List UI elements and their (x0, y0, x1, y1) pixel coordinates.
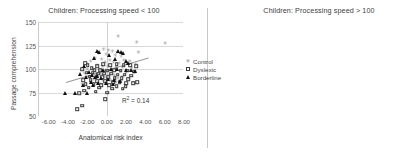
data-point-dyslexic (115, 84, 119, 88)
data-point-dyslexic (98, 86, 102, 90)
legend-item-label: Control (193, 58, 213, 65)
data-point-dyslexic (110, 87, 114, 91)
chart-panel-processing-speed-below-100: Children: Processing speed < 100 Passage… (0, 0, 208, 156)
data-point-dyslexic (80, 104, 84, 108)
data-point-borderline (93, 75, 97, 79)
data-point-dyslexic (115, 63, 119, 67)
filled-triangle-marker-icon (184, 75, 192, 79)
x-axis-tick-label: 0.00 (101, 118, 113, 125)
legend-item-borderline: Borderline (184, 73, 232, 81)
data-point-borderline (104, 81, 108, 85)
data-point-control: ✳ (136, 50, 140, 54)
data-point-borderline (85, 91, 89, 95)
y-axis-label-left: Passage comprehension (10, 37, 17, 110)
data-point-dyslexic (135, 80, 139, 84)
data-point-borderline (99, 76, 103, 80)
y-axis-tick-label: 50 (29, 113, 36, 120)
data-point-control: ✳ (163, 41, 167, 45)
legend-item-label: Dyslexic (193, 66, 216, 73)
x-axis-tick-label: -6.00 (42, 118, 56, 125)
data-point-borderline (97, 50, 101, 54)
data-point-borderline (118, 79, 122, 83)
x-axis-label-left: Anatomical risk index (38, 134, 183, 141)
legend-item-dyslexic: Dyslexic (184, 65, 232, 73)
data-point-borderline (111, 82, 115, 86)
data-point-control: ✳ (134, 40, 138, 44)
y-axis-tick-label: 100 (25, 66, 36, 73)
legend-item-label: Borderline (193, 74, 221, 81)
data-point-dyslexic (134, 64, 138, 68)
gridline-y (39, 22, 183, 23)
y-axis-tick-label: 150 (25, 19, 36, 26)
y-axis-tick-label: 125 (25, 42, 36, 49)
x-axis-tick-label: -2.00 (80, 118, 94, 125)
data-point-borderline (82, 64, 86, 68)
x-axis-tick-label: 8.00 (178, 118, 190, 125)
plot-points-left: ✳✳✳✳✳✳✳✳✳✳✳✳✳✳✳✳✳✳✳✳✳✳✳✳✳✳✳✳✳✳✳✳✳✳✳✳✳✳✳✳… (39, 22, 183, 116)
data-point-dyslexic (75, 108, 79, 112)
data-point-dyslexic (122, 63, 126, 67)
x-axis-tick-label: 2.00 (120, 118, 132, 125)
r-squared-annotation-left: R2 = 0.14 (122, 96, 149, 104)
data-point-borderline (63, 91, 67, 95)
data-point-dyslexic (121, 87, 125, 91)
data-point-dyslexic (103, 97, 107, 101)
data-point-borderline (126, 61, 130, 65)
data-point-borderline (115, 67, 119, 71)
data-point-dyslexic (94, 90, 98, 94)
data-point-borderline (78, 72, 82, 76)
data-point-dyslexic (101, 63, 105, 67)
chart-title-left: Children: Processing speed < 100 (0, 6, 208, 15)
chart-title-right: Children: Processing speed > 100 (208, 6, 416, 15)
legend: ✳ControlDyslexicBorderline (184, 57, 232, 81)
x-axis-tick-label: -4.00 (61, 118, 75, 125)
data-point-borderline (101, 68, 105, 72)
data-point-dyslexic (131, 81, 135, 85)
data-point-dyslexic (105, 91, 109, 95)
data-point-borderline (73, 91, 77, 95)
gridline-y (39, 93, 183, 94)
data-point-borderline (81, 83, 85, 87)
data-point-borderline (113, 57, 117, 61)
data-point-borderline (92, 56, 96, 60)
data-point-borderline (124, 68, 128, 72)
data-point-borderline (96, 81, 100, 85)
x-axis-tick-label: 6.00 (159, 118, 171, 125)
data-point-borderline (91, 83, 95, 87)
data-point-borderline (109, 67, 113, 71)
open-square-marker-icon (184, 67, 192, 71)
x-axis-tick-label: 4.00 (139, 118, 151, 125)
plot-area-left: ✳✳✳✳✳✳✳✳✳✳✳✳✳✳✳✳✳✳✳✳✳✳✳✳✳✳✳✳✳✳✳✳✳✳✳✳✳✳✳✳… (38, 22, 183, 116)
y-axis-tick-label: 75 (29, 89, 36, 96)
data-point-control: ✳ (116, 34, 120, 38)
data-point-borderline (107, 53, 111, 57)
data-point-borderline (84, 75, 88, 79)
data-point-borderline (133, 69, 137, 73)
data-point-borderline (121, 51, 125, 55)
figure-container: Children: Processing speed < 100 Passage… (0, 0, 416, 156)
data-point-dyslexic (77, 92, 81, 96)
chart-panel-processing-speed-above-100: Children: Processing speed > 100 ✳✳✳✳✳✳✳… (208, 0, 416, 156)
asterisk-marker-icon: ✳ (184, 58, 192, 64)
legend-item-control: ✳Control (184, 57, 232, 65)
